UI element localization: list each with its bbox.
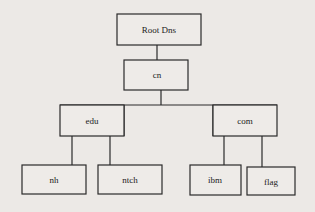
node-label: com (237, 116, 253, 126)
node-edu: edu (60, 105, 124, 136)
node-label: edu (86, 116, 99, 126)
dns-tree-diagram: Root Dns cn edu com nh ntch ibm flag (0, 0, 315, 212)
node-root: Root Dns (117, 14, 201, 45)
node-label: nh (50, 175, 60, 185)
node-label: ntch (122, 175, 138, 185)
node-label: ibm (208, 175, 222, 185)
node-ntch: ntch (98, 165, 162, 194)
node-label: cn (153, 70, 162, 80)
node-label: flag (264, 177, 278, 187)
node-label: Root Dns (142, 25, 177, 35)
node-cn: cn (124, 60, 188, 90)
node-com: com (213, 105, 277, 136)
node-nh: nh (22, 165, 86, 194)
node-flag: flag (247, 167, 295, 195)
node-ibm: ibm (190, 165, 241, 195)
